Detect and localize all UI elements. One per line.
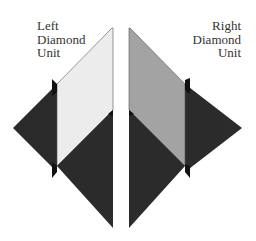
label-line: Unit xyxy=(193,46,241,60)
label-line: Right xyxy=(193,19,241,33)
label-line: Unit xyxy=(37,46,85,60)
label-line: Diamond xyxy=(193,33,241,47)
left-diamond-unit-label: Left Diamond Unit xyxy=(37,19,85,60)
label-line: Diamond xyxy=(37,33,85,47)
right-lower-notch xyxy=(185,164,190,178)
right-outer-dark-triangle xyxy=(185,84,242,172)
label-line: Left xyxy=(37,19,85,33)
right-diamond-unit-label: Right Diamond Unit xyxy=(193,19,241,60)
left-outer-dark-triangle xyxy=(13,84,57,172)
